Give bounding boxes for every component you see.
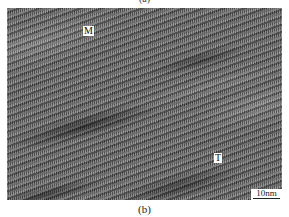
lattice-fringes-diagonal bbox=[7, 8, 282, 200]
scale-bar: 10nm bbox=[251, 189, 282, 200]
tem-micrograph: M T 10nm bbox=[7, 8, 282, 200]
figure-caption-a: (a) bbox=[0, 0, 289, 4]
phase-label-t: T bbox=[214, 153, 222, 163]
scale-bar-line bbox=[253, 198, 280, 199]
figure-caption-b: (b) bbox=[0, 203, 289, 215]
phase-label-m: M bbox=[83, 26, 94, 36]
scale-bar-label: 10nm bbox=[251, 189, 282, 198]
